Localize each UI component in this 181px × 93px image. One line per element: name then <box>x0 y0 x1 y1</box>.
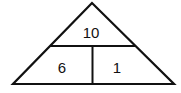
triangle-diagram <box>0 0 181 93</box>
bottom-right-number: 1 <box>113 60 121 75</box>
top-number: 10 <box>83 25 100 40</box>
bottom-left-number: 6 <box>58 60 66 75</box>
